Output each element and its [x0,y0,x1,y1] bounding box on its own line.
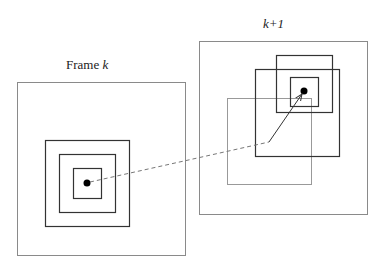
frame-k: Frame k [18,57,186,256]
frame-k-plus-1-label: k+1 [263,16,284,31]
frame-k-plus-1-border [200,42,368,215]
diagram-canvas: Frame k k+1 [0,0,384,272]
frame-k-plus-1: k+1 [200,16,368,215]
motion-vector-arrow [269,94,302,142]
frame-k-label: Frame k [66,57,108,72]
motion-dashed-line [90,142,269,182]
frame-k-plus-1-point-dot [301,88,308,95]
frame-k-point-dot [84,180,91,187]
candidate-box-upper [277,56,333,113]
